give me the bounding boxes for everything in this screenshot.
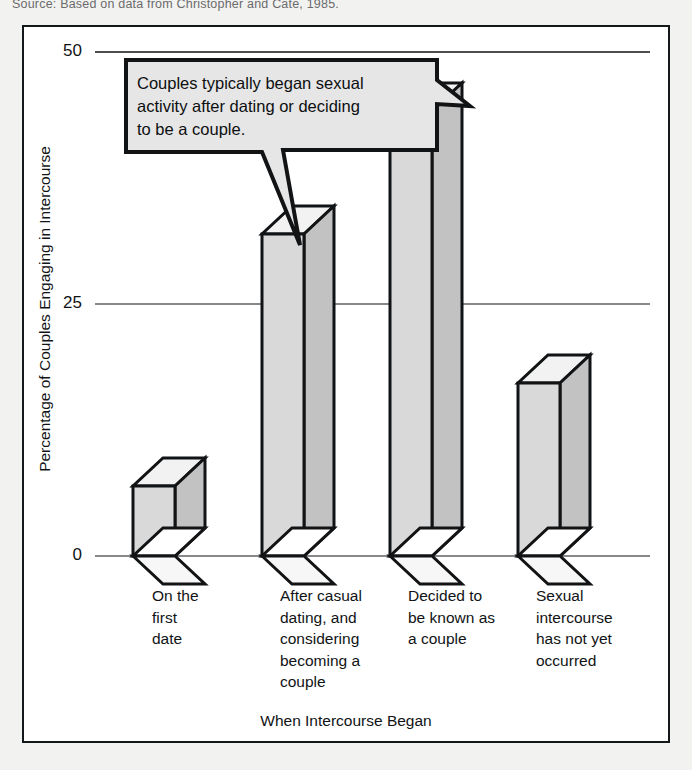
x-category-4-line-1: Sexual bbox=[536, 585, 651, 607]
x-category-1-line-2: first bbox=[152, 607, 262, 629]
x-category-2-line-1: After casual bbox=[280, 585, 395, 607]
x-category-3-line-1: Decided to bbox=[408, 585, 526, 607]
x-category-2-line-3: considering bbox=[280, 628, 395, 650]
x-category-4-line-3: has not yet bbox=[536, 628, 651, 650]
chart-page: Source: Based on data from Christopher a… bbox=[0, 0, 692, 770]
callout-line-3: to be a couple. bbox=[137, 118, 437, 141]
bar-group-4 bbox=[518, 355, 590, 584]
callout-line-2: activity after dating or deciding bbox=[137, 95, 437, 118]
y-tick-0: 0 bbox=[38, 545, 82, 565]
callout-text: Couples typically began sexual activity … bbox=[137, 72, 437, 141]
x-category-2-line-4: becoming a bbox=[280, 650, 395, 672]
y-tick-25: 25 bbox=[38, 293, 82, 313]
y-tick-50: 50 bbox=[38, 41, 82, 61]
x-category-3: Decided to be known as a couple bbox=[408, 585, 526, 650]
bar-group-2 bbox=[262, 206, 334, 584]
x-category-1-line-1: On the bbox=[152, 585, 262, 607]
x-axis-title: When Intercourse Began bbox=[0, 712, 692, 730]
x-category-2-line-5: couple bbox=[280, 671, 395, 693]
bar-group-3 bbox=[390, 83, 462, 584]
callout-line-1: Couples typically began sexual bbox=[137, 72, 437, 95]
x-category-4: Sexual intercourse has not yet occurred bbox=[536, 585, 651, 671]
x-category-3-line-3: a couple bbox=[408, 628, 526, 650]
bar-group-1 bbox=[133, 458, 205, 584]
x-category-2-line-2: dating, and bbox=[280, 607, 395, 629]
x-category-3-line-2: be known as bbox=[408, 607, 526, 629]
x-category-4-line-2: intercourse bbox=[536, 607, 651, 629]
x-category-1-line-3: date bbox=[152, 628, 262, 650]
x-category-4-line-4: occurred bbox=[536, 650, 651, 672]
x-category-2: After casual dating, and considering bec… bbox=[280, 585, 395, 693]
x-category-1: On the first date bbox=[152, 585, 262, 650]
